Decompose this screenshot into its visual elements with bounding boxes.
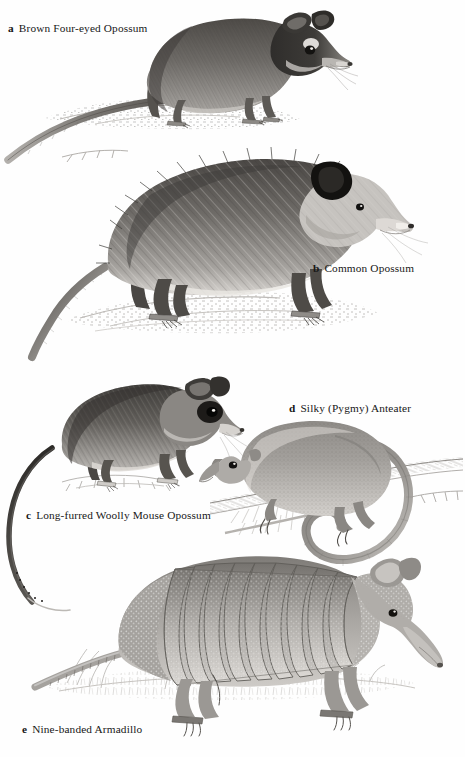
figure-nine-banded-armadillo <box>15 555 455 735</box>
figure-common-opossum <box>10 145 450 360</box>
bands-e <box>164 563 357 685</box>
claws-e <box>172 710 353 724</box>
illustration-plate: aBrown Four-eyed Opossum <box>0 0 465 757</box>
figure-label-d: Silky (Pygmy) Anteater <box>300 402 411 414</box>
caption-d: dSilky (Pygmy) Anteater <box>289 402 411 414</box>
caption-b: bCommon Opossum <box>313 262 414 274</box>
twig-b <box>62 150 128 162</box>
figure-key-d: d <box>289 402 295 414</box>
ear-far-c <box>210 376 230 396</box>
figure-key-b: b <box>313 262 319 274</box>
eye-a <box>305 45 315 54</box>
caption-e: eNine-banded Armadillo <box>22 723 142 735</box>
ground-tuft-c <box>62 475 180 491</box>
eye-b <box>356 204 364 211</box>
figure-key-a: a <box>8 22 14 34</box>
figure-label-e: Nine-banded Armadillo <box>32 723 142 735</box>
caption-a: aBrown Four-eyed Opossum <box>8 22 148 34</box>
figure-label-c: Long-furred Woolly Mouse Opossum <box>36 509 211 521</box>
figure-label-b: Common Opossum <box>324 262 414 274</box>
ground-rock-b <box>65 292 378 333</box>
caption-c: cLong-furred Woolly Mouse Opossum <box>26 509 211 521</box>
eye-e <box>389 609 398 617</box>
figure-label-a: Brown Four-eyed Opossum <box>19 22 148 34</box>
figure-key-e: e <box>22 723 27 735</box>
figure-key-c: c <box>26 509 31 521</box>
eye-d <box>229 461 237 468</box>
